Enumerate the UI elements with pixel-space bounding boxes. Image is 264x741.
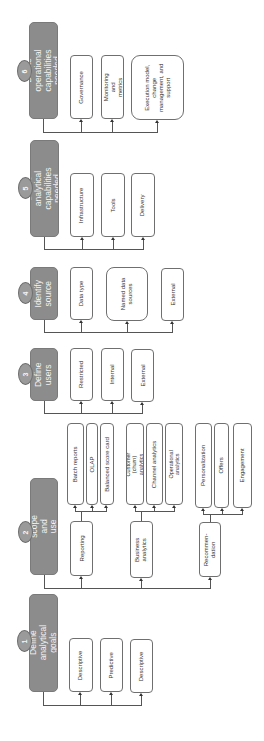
arrow-icon xyxy=(172,505,176,508)
step-1-child-descriptive-2: Descriptive xyxy=(130,639,153,693)
connector xyxy=(135,511,175,512)
reporting-child-batch-reports: Batch reports xyxy=(67,423,84,505)
arrow-icon xyxy=(139,578,143,581)
connector xyxy=(141,696,142,705)
step-1-child-predictive: Predictive xyxy=(100,638,123,692)
connector xyxy=(44,237,45,249)
arrow-icon xyxy=(240,508,244,511)
connector xyxy=(174,508,175,511)
step-5-title: Define analytical capabilities needed xyxy=(30,167,59,209)
connector xyxy=(222,511,223,514)
process-diagram: Define operational capabilities needed 6… xyxy=(0,0,264,741)
arrow-icon xyxy=(80,237,84,240)
connector xyxy=(112,122,113,132)
recommendation-child-engagement: Engagement xyxy=(233,423,252,508)
step-5-child-tools: Tools xyxy=(101,173,125,237)
step-5-child-infrastructure: Infrastructure xyxy=(70,173,94,237)
connector xyxy=(44,401,45,413)
connector xyxy=(112,404,113,413)
arrow-icon xyxy=(104,505,108,508)
connector xyxy=(44,249,144,250)
connector xyxy=(82,240,83,249)
step-6-header: Define operational capabilities needed xyxy=(29,22,58,119)
arrow-icon xyxy=(109,692,113,695)
arrow-icon xyxy=(201,508,205,511)
arrow-icon xyxy=(140,402,144,405)
step-3-child-restricted: Restricted xyxy=(70,348,93,401)
connector xyxy=(81,579,82,588)
arrow-icon xyxy=(79,576,83,579)
arrow-icon xyxy=(155,120,159,123)
connector xyxy=(106,508,107,511)
arrow-icon xyxy=(110,401,114,404)
connector xyxy=(210,580,211,588)
arrow-icon xyxy=(111,237,115,240)
step-5-badge: 5 xyxy=(18,177,33,199)
arrow-icon xyxy=(141,237,145,240)
connector xyxy=(44,320,45,332)
arrow-icon xyxy=(79,401,83,404)
step-6-child-execution: Execution model, change management, and … xyxy=(131,55,184,120)
arrow-icon xyxy=(79,320,83,323)
connector xyxy=(92,508,93,511)
business-child-operational-analytics: Operational analytics xyxy=(165,423,183,505)
connector xyxy=(172,324,173,332)
connector xyxy=(242,511,243,514)
step-2-group-business-analytics: Business analytics xyxy=(130,521,153,578)
connector xyxy=(81,122,82,132)
connector xyxy=(154,508,155,511)
connector xyxy=(113,240,114,249)
arrow-icon xyxy=(110,119,114,122)
connector xyxy=(44,413,143,414)
arrow-icon xyxy=(125,321,129,324)
arrow-icon xyxy=(90,505,94,508)
arrow-icon xyxy=(220,508,224,511)
connector xyxy=(127,324,128,332)
step-6-badge: 6 xyxy=(17,60,32,82)
step-6-child-governance: Governance xyxy=(70,55,93,119)
connector xyxy=(81,323,82,332)
step-3-child-internal: Internal xyxy=(101,348,124,401)
arrow-icon xyxy=(78,692,82,695)
connector xyxy=(43,705,142,706)
connector xyxy=(111,695,112,705)
step-3-title: Define users xyxy=(34,362,54,388)
step-2-badge: 2 xyxy=(18,521,33,543)
step-6-title: Define operational capabilities needed xyxy=(29,49,58,91)
connector xyxy=(142,405,143,413)
step-1-header: Define analytical goals xyxy=(29,594,58,692)
connector xyxy=(43,132,158,133)
step-1-badge: 1 xyxy=(17,630,32,652)
step-5-child-delivery: Delivery xyxy=(131,173,155,237)
step-4-child-data-type: Data type xyxy=(70,267,93,320)
connector xyxy=(75,508,76,511)
step-2-group-reporting: Reporting xyxy=(70,521,93,576)
arrow-icon xyxy=(73,505,77,508)
connector xyxy=(44,588,211,589)
step-5-header: Define analytical capabilities needed xyxy=(30,140,59,237)
connector xyxy=(81,404,82,413)
step-3-header: Define users xyxy=(30,348,58,401)
connector xyxy=(210,514,211,522)
connector xyxy=(203,514,243,515)
connector xyxy=(80,695,81,705)
reporting-child-balanced-score-card: Balanced score card xyxy=(100,423,114,505)
connector xyxy=(43,119,44,132)
connector xyxy=(203,511,204,514)
connector xyxy=(81,511,82,521)
connector xyxy=(44,332,173,333)
connector xyxy=(141,581,142,588)
connector xyxy=(157,123,158,132)
step-4-child-named-data-sources: Named data sources xyxy=(106,267,148,321)
arrow-icon xyxy=(170,321,174,324)
business-child-channel-analytics: Channel analytics xyxy=(146,423,163,505)
connector xyxy=(141,511,142,521)
recommendation-child-offers: Offers xyxy=(214,423,229,508)
arrow-icon xyxy=(133,505,137,508)
connector xyxy=(135,508,136,511)
arrow-icon xyxy=(139,693,143,696)
step-4-badge: 4 xyxy=(18,282,33,304)
step-2-title: Define scope and use cases xyxy=(30,513,58,539)
connector xyxy=(75,511,107,512)
business-child-customer-churn: Customer (churn) analytics xyxy=(126,423,144,505)
